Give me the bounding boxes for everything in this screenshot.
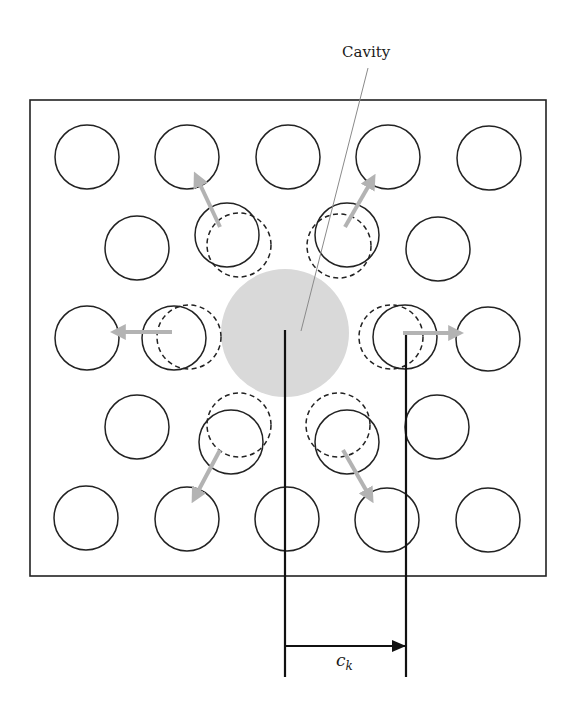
particle-circle bbox=[405, 395, 469, 459]
particle-circle bbox=[256, 125, 320, 189]
cavity-label: Cavity bbox=[342, 43, 391, 61]
displaced-particle-circle-lower-left bbox=[199, 410, 263, 474]
displacement-arrow-icon-lower-left bbox=[195, 450, 220, 497]
distance-subscript: k bbox=[346, 659, 353, 673]
particle-circle bbox=[105, 216, 169, 280]
particle-circle bbox=[105, 395, 169, 459]
original-position-circle-left bbox=[157, 305, 221, 369]
particle-circle bbox=[356, 125, 420, 189]
leader-line bbox=[301, 68, 368, 331]
particle-circle bbox=[54, 486, 118, 550]
displaced-particle-circle-upper-left bbox=[195, 203, 259, 267]
cavity-leader-line bbox=[301, 68, 368, 331]
particle-circle bbox=[406, 217, 470, 281]
cavity-lattice-diagram: Cavity ck bbox=[0, 0, 574, 714]
displaced-particle-circle-lower-right bbox=[315, 410, 379, 474]
particle-circle bbox=[55, 125, 119, 189]
particle-circle bbox=[55, 306, 119, 370]
particle-circle bbox=[456, 307, 520, 371]
particle-circle bbox=[355, 488, 419, 552]
particle-circle bbox=[255, 487, 319, 551]
displaced-particle-circle-left bbox=[142, 306, 206, 370]
particle-circle bbox=[456, 488, 520, 552]
particle-circle bbox=[457, 126, 521, 190]
distance-label: ck bbox=[336, 650, 353, 673]
particle-circle bbox=[155, 487, 219, 551]
original-position-circle-right bbox=[359, 305, 423, 369]
displacement-arrow-icon-upper-left bbox=[197, 178, 220, 227]
particle-circle bbox=[155, 125, 219, 189]
original-position-circle-lower-left bbox=[207, 393, 271, 457]
distance-symbol: c bbox=[336, 650, 346, 670]
